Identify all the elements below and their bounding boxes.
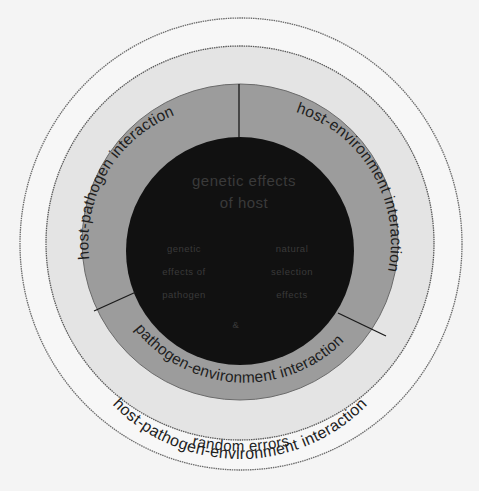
core-title-line1: genetic effects [192, 172, 296, 189]
core-right-line2: selection [271, 266, 313, 277]
core-left-line2: effects of [162, 266, 205, 277]
core-left-line1: genetic [167, 243, 201, 254]
core-right-line3: effects [276, 289, 307, 300]
core-title-line2: of host [220, 194, 269, 211]
core-left-line3: pathogen [162, 289, 206, 300]
core-bottom-mark: & [233, 319, 240, 330]
variance-components-diagram: random errors host-pathogen-environment … [0, 0, 479, 491]
core-right-line1: natural [276, 243, 309, 254]
